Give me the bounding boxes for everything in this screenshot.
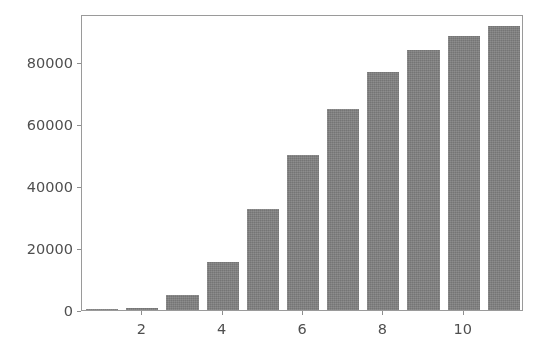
bar — [207, 262, 239, 310]
y-tick-mark — [77, 311, 81, 312]
bar — [367, 72, 399, 310]
x-tick-label: 6 — [282, 322, 322, 337]
x-tick-mark — [302, 311, 303, 315]
y-tick-mark — [77, 249, 81, 250]
x-tick-mark — [382, 311, 383, 315]
x-tick-label: 4 — [202, 322, 242, 337]
x-tick-label: 2 — [121, 322, 161, 337]
plot-axes — [81, 15, 523, 311]
y-tick-label: 40000 — [3, 180, 73, 195]
bar — [86, 309, 118, 310]
y-tick-mark — [77, 187, 81, 188]
bar — [327, 109, 359, 310]
bar — [488, 26, 520, 310]
x-tick-label: 10 — [443, 322, 483, 337]
x-tick-mark — [141, 311, 142, 315]
bar — [126, 308, 158, 310]
figure-canvas: 020000400006000080000 246810 — [0, 0, 546, 351]
y-tick-label: 80000 — [3, 56, 73, 71]
bar — [407, 50, 439, 310]
x-tick-label: 8 — [362, 322, 402, 337]
bar — [448, 36, 480, 310]
y-tick-label: 0 — [3, 304, 73, 319]
y-tick-mark — [77, 125, 81, 126]
plot-area — [82, 16, 522, 310]
bar — [247, 209, 279, 310]
bar — [287, 155, 319, 310]
y-tick-label: 20000 — [3, 242, 73, 257]
x-tick-mark — [222, 311, 223, 315]
bar — [166, 295, 198, 310]
y-tick-label: 60000 — [3, 118, 73, 133]
x-tick-mark — [463, 311, 464, 315]
y-tick-mark — [77, 63, 81, 64]
